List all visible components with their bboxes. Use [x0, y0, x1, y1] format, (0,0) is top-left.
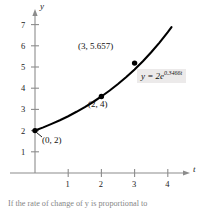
y-tick-label-3: 3	[21, 105, 25, 114]
equation-callout: y = 2e0.3466t	[137, 69, 186, 83]
y-tick-label-6: 6	[21, 42, 25, 51]
figure-caption: If the rate of change of y is proportion…	[8, 199, 203, 208]
point-label-2-4: (2, 4)	[88, 100, 108, 109]
x-tick-label-4: 4	[165, 180, 169, 189]
x-axis-arrowhead	[183, 170, 190, 175]
y-axis-label: y	[40, 2, 44, 11]
y-tick-label-2: 2	[21, 127, 25, 136]
y-tick-label-7: 7	[21, 21, 25, 30]
data-point-3-5657	[132, 60, 137, 65]
equation-exponent: 0.3466t	[164, 70, 182, 76]
x-tick-label-1: 1	[66, 180, 70, 189]
point-label-3-5657: (3, 5.657)	[78, 42, 113, 51]
y-tick-label-4: 4	[21, 84, 25, 93]
exponential-growth-figure: 7 6 5 4 3 2 1 1 2 3 4 y t (0, 2) (2, 4) …	[0, 0, 203, 210]
y-axis-arrowhead	[32, 9, 37, 16]
y-tick-label-1: 1	[21, 148, 25, 157]
equation-base: y = 2e	[141, 71, 164, 81]
x-tick-label-2: 2	[99, 180, 103, 189]
x-axis-label: t	[193, 165, 196, 174]
point-label-0-2: (0, 2)	[42, 136, 62, 145]
y-tick-label-5: 5	[21, 63, 25, 72]
x-tick-label-3: 3	[132, 180, 136, 189]
